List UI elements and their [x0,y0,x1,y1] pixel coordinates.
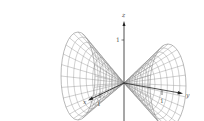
right-cone-mesh [124,44,186,121]
y-tick-label: 1 [160,97,164,104]
y-axis-label: y [185,91,190,99]
z-axis-arrow-icon [123,21,126,26]
y-axis-arrow-icon [178,91,184,95]
z-tick-label: 1 [116,36,120,43]
z-axis-label: z [121,11,126,18]
x-axis-label: x [83,98,87,105]
double-cone-3d-plot: z 1 y 1 x 1 [0,0,204,121]
left-cone-mesh [61,32,124,120]
x-tick-label: 1 [97,100,101,107]
